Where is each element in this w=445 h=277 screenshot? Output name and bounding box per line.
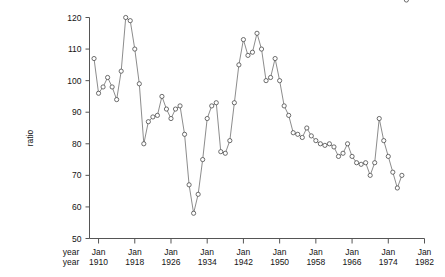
data-point-marker [115,97,119,101]
data-point-marker [192,211,196,215]
data-point-marker [169,116,173,120]
data-point-marker [142,142,146,146]
data-point-marker [214,101,218,105]
data-point-marker [305,126,309,130]
x-tick-year-label: 1934 [198,257,217,267]
data-point-marker [400,173,404,177]
data-point-marker [404,0,408,2]
data-point-marker [250,50,254,54]
x-tick-year-label: 1966 [343,257,362,267]
y-tick-label: 110 [68,44,82,54]
x-tick-month-label: Jan [128,247,142,257]
data-point-marker [128,19,132,23]
y-tick-label: 70 [72,170,82,180]
x-tick-year-label: 1974 [379,257,398,267]
data-point-marker [155,113,159,117]
data-point-marker [124,15,128,19]
x-tick-month-label: Jan [273,247,287,257]
data-point-marker [364,161,368,165]
data-point-marker [282,104,286,108]
y-tick-label: 100 [67,76,81,86]
data-point-marker [377,116,381,120]
data-point-marker [178,104,182,108]
data-point-marker [300,135,304,139]
x-tick-month-label: Jan [418,247,432,257]
y-tick-label: 80 [72,139,82,149]
y-axis-title: ratio [25,129,35,146]
data-point-marker [119,69,123,73]
data-point-marker [246,53,250,57]
data-point-marker [291,131,295,135]
data-point-marker [173,107,177,111]
data-point-marker [368,173,372,177]
x-tick-month-label: Jan [345,247,359,257]
x-tick-year-label: 1918 [125,257,144,267]
plot-background [0,0,445,277]
data-point-marker [350,154,354,158]
data-point-marker [219,150,223,154]
data-point-marker [268,75,272,79]
y-tick-label: 90 [72,107,82,117]
x-tick-year-label: 1958 [306,257,325,267]
data-point-marker [137,82,141,86]
data-point-marker [278,79,282,83]
data-point-marker [228,139,232,143]
data-point-marker [182,132,186,136]
x-tick-year-label: 1926 [162,257,181,267]
x-tick-year-label: 1942 [234,257,253,267]
data-point-marker [187,183,191,187]
data-point-marker [101,85,105,89]
data-point-marker [259,47,263,51]
chart-container: 5060708090100110120 Jan1910Jan1918Jan192… [0,0,445,277]
data-point-marker [373,161,377,165]
data-point-marker [354,161,358,165]
data-point-marker [223,151,227,155]
data-point-marker [296,132,300,136]
data-point-marker [255,31,259,35]
data-point-marker [309,134,313,138]
data-point-marker [314,139,318,143]
data-point-marker [201,157,205,161]
data-point-marker [341,151,345,155]
x-axis-title-row-1: year [63,247,80,257]
x-tick-month-label: Jan [381,247,395,257]
data-point-marker [146,120,150,124]
x-tick-month-label: Jan [309,247,323,257]
data-point-marker [232,101,236,105]
x-tick-year-label: 1910 [89,257,108,267]
data-point-marker [323,143,327,147]
data-point-marker [336,154,340,158]
line-chart-svg: 5060708090100110120 Jan1910Jan1918Jan192… [0,0,445,277]
data-point-marker [110,85,114,89]
data-point-marker [318,142,322,146]
x-tick-month-label: Jan [200,247,214,257]
x-tick-year-label: 1982 [415,257,434,267]
data-point-marker [332,145,336,149]
data-point-marker [345,142,349,146]
y-tick-label: 60 [72,202,82,212]
data-point-marker [164,107,168,111]
data-point-marker [106,75,110,79]
data-point-marker [151,115,155,119]
data-point-marker [205,116,209,120]
data-point-marker [196,192,200,196]
data-point-marker [395,186,399,190]
data-point-marker [382,139,386,143]
data-point-marker [264,79,268,83]
data-point-marker [359,162,363,166]
data-point-marker [386,154,390,158]
data-point-marker [273,56,277,60]
y-tick-label: 50 [72,234,82,244]
data-point-marker [160,94,164,98]
data-point-marker [287,113,291,117]
data-point-marker [96,91,100,95]
x-tick-month-label: Jan [92,247,106,257]
data-point-marker [327,142,331,146]
y-tick-label: 120 [67,13,81,23]
x-axis-title-row-2: year [63,257,80,267]
data-point-marker [133,47,137,51]
data-point-marker [210,104,214,108]
x-tick-year-label: 1950 [270,257,289,267]
data-point-marker [241,38,245,42]
x-tick-month-label: Jan [237,247,251,257]
